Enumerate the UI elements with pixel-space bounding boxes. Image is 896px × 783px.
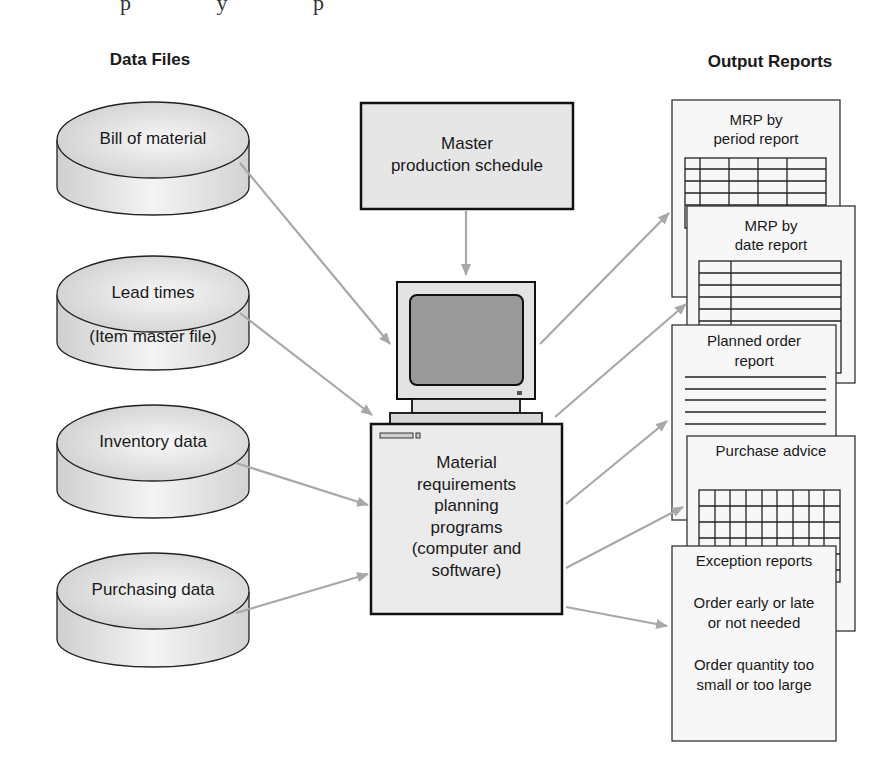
label-bill-of-material: Bill of material [57, 128, 249, 149]
label-master: Master [361, 133, 573, 154]
label-computer-line-3: planning [371, 495, 562, 516]
label-computer-line-5: (computer and [371, 538, 562, 559]
cylinder-bill-of-material [57, 102, 249, 215]
label-computer-line-4: programs [371, 517, 562, 538]
report-exception [672, 546, 836, 741]
computer-monitor [390, 282, 542, 424]
cylinder-lead-times [57, 256, 249, 370]
label-computer-line-1: Material [371, 452, 562, 473]
label-exception-item-1: Order early or late [672, 593, 836, 612]
label-production-schedule: production schedule [361, 155, 573, 176]
label-planned-order-1: Planned order [672, 331, 836, 350]
label-purchasing-data: Purchasing data [57, 579, 249, 600]
cylinder-inventory-data [57, 405, 249, 518]
label-exception-item-3: Order quantity too [672, 655, 836, 674]
label-computer-line-6: software) [371, 560, 562, 581]
label-computer-line-2: requirements [371, 474, 562, 495]
label-item-master-file: (Item master file) [57, 326, 249, 347]
label-exception-item-4: small or too large [672, 675, 836, 694]
label-planned-order-2: report [672, 351, 836, 370]
cylinder-purchasing-data [57, 553, 249, 667]
heading-output-reports: Output Reports [680, 52, 860, 72]
label-purchase-advice: Purchase advice [687, 441, 855, 460]
heading-data-files: Data Files [90, 50, 210, 70]
label-mrp-by-date-1: MRP by [687, 216, 855, 235]
label-mrp-by-period-2: period report [672, 129, 840, 148]
label-exception-item-2: or not needed [672, 613, 836, 632]
label-exception-title: Exception reports [672, 551, 836, 570]
label-mrp-by-date-2: date report [687, 235, 855, 254]
label-mrp-by-period-1: MRP by [672, 110, 840, 129]
label-inventory-data: Inventory data [57, 431, 249, 452]
label-lead-times: Lead times [57, 282, 249, 303]
